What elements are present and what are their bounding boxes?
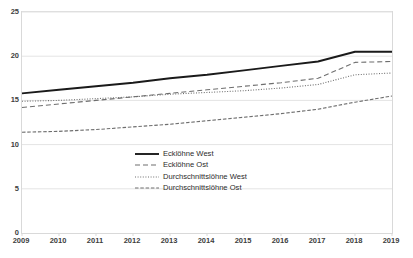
legend-item[interactable]: Durchschnittslöhne Ost bbox=[135, 183, 300, 195]
y-axis-tick-label: 10 bbox=[1, 141, 19, 149]
chart-canvas bbox=[0, 0, 413, 258]
x-axis-tick-label: 2009 bbox=[13, 237, 30, 245]
legend-item[interactable]: Ecklöhne Ost bbox=[135, 160, 300, 172]
legend-line-swatch-icon bbox=[135, 183, 159, 193]
y-axis-tick-label: 15 bbox=[1, 96, 19, 104]
x-axis-tick-label: 2019 bbox=[383, 237, 400, 245]
legend-item-label: Ecklöhne West bbox=[163, 150, 214, 158]
x-axis-tick-label: 2015 bbox=[235, 237, 252, 245]
y-axis-labels: 0510152025 bbox=[0, 0, 19, 258]
y-axis-tick-label: 20 bbox=[1, 52, 19, 60]
series-line-0 bbox=[22, 52, 392, 94]
legend-line-swatch-icon bbox=[135, 149, 159, 159]
x-axis-tick-label: 2011 bbox=[87, 237, 103, 245]
x-axis-tick-label: 2016 bbox=[272, 237, 289, 245]
legend-item[interactable]: Ecklöhne West bbox=[135, 148, 300, 160]
x-axis-tick-label: 2010 bbox=[50, 237, 67, 245]
x-axis-labels: 2009201020112012201320142015201620172018… bbox=[21, 237, 393, 253]
legend-line-swatch-icon bbox=[135, 172, 159, 182]
x-axis-tick-label: 2018 bbox=[346, 237, 363, 245]
chart-legend: Ecklöhne WestEcklöhne OstDurchschnittslö… bbox=[135, 148, 300, 194]
series-lines bbox=[22, 52, 392, 132]
legend-item-label: Durchschnittslöhne Ost bbox=[163, 184, 242, 192]
x-axis-tick-label: 2013 bbox=[161, 237, 178, 245]
x-axis-tick-label: 2017 bbox=[309, 237, 326, 245]
x-axis-tick-label: 2012 bbox=[124, 237, 141, 245]
legend-item[interactable]: Durchschnittslöhne West bbox=[135, 171, 300, 183]
line-chart: 0510152025 20092010201120122013201420152… bbox=[0, 0, 413, 258]
legend-item-label: Ecklöhne Ost bbox=[163, 161, 208, 169]
series-line-3 bbox=[22, 96, 392, 132]
legend-item-label: Durchschnittslöhne West bbox=[163, 173, 247, 181]
y-axis-tick-label: 25 bbox=[1, 8, 19, 16]
y-axis-tick-label: 5 bbox=[1, 185, 19, 193]
legend-line-swatch-icon bbox=[135, 160, 159, 170]
x-axis-tick-label: 2014 bbox=[198, 237, 215, 245]
